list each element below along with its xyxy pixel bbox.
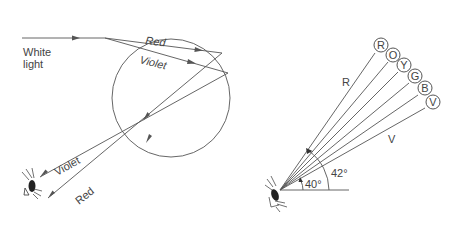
red-ray-reflected bbox=[48, 53, 222, 198]
svg-text:R: R bbox=[377, 39, 385, 51]
violet-ray-inside bbox=[105, 38, 228, 73]
red-inside-label: Red bbox=[145, 34, 167, 48]
svg-text:O: O bbox=[389, 49, 398, 61]
angle-42-label: 42° bbox=[331, 167, 348, 179]
raindrop-refraction-panel: White light Red Violet Violet Red bbox=[22, 34, 230, 207]
violet-inside-arrow-icon bbox=[187, 59, 196, 64]
v-ray-label: V bbox=[388, 133, 396, 145]
ray-b bbox=[280, 95, 418, 190]
color-circle-o: O bbox=[386, 48, 400, 62]
color-circle-g: G bbox=[408, 69, 422, 83]
ray-r bbox=[280, 53, 375, 190]
eye-icon bbox=[265, 176, 287, 212]
white-light-label-2: light bbox=[23, 58, 43, 70]
svg-text:B: B bbox=[421, 82, 428, 94]
color-circle-b: B bbox=[418, 81, 432, 95]
svg-text:G: G bbox=[411, 70, 420, 82]
angle-40-label: 40° bbox=[305, 178, 322, 190]
color-circle-r: R bbox=[374, 38, 388, 52]
eye-icon bbox=[22, 168, 42, 199]
color-circle-y: Y bbox=[397, 58, 411, 72]
red-out-label: Red bbox=[73, 185, 96, 207]
rainbow-diagram: White light Red Violet Violet Red R bbox=[0, 0, 460, 226]
violet-inside-label: Violet bbox=[139, 53, 169, 71]
color-circle-v: V bbox=[426, 95, 440, 109]
white-light-label-1: White bbox=[23, 46, 51, 58]
white-light-arrow-icon bbox=[72, 36, 80, 41]
red-eye-arrow-icon bbox=[48, 191, 55, 199]
red-out-arrow-icon bbox=[146, 134, 152, 143]
rainbow-angle-panel: R O Y G B V R V 40° 42° bbox=[265, 38, 440, 212]
violet-out-label: Violet bbox=[52, 154, 82, 178]
svg-text:Y: Y bbox=[400, 59, 408, 71]
angle-arc-40 bbox=[301, 181, 303, 190]
ray-v bbox=[280, 108, 425, 190]
svg-text:V: V bbox=[429, 96, 437, 108]
r-ray-label: R bbox=[342, 76, 350, 88]
